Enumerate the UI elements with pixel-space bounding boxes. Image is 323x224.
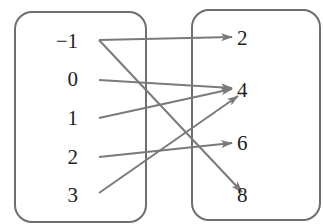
range-values: 2468 [237, 26, 248, 207]
domain-value: 3 [68, 183, 79, 207]
domain-value: 0 [68, 67, 79, 91]
arrow-icon [99, 37, 232, 40]
domain-box [15, 12, 146, 222]
arrow-icon [99, 143, 232, 157]
mapping-diagram: −10123 2468 [0, 0, 323, 224]
domain-values: −10123 [56, 29, 78, 207]
arrow-icon [99, 80, 232, 88]
mapping-diagram-canvas: −10123 2468 [0, 0, 323, 224]
range-value: 6 [237, 131, 248, 155]
domain-value: 1 [68, 106, 79, 130]
range-value: 8 [237, 183, 248, 207]
mapping-arrows [99, 37, 242, 193]
range-value: 2 [237, 26, 248, 50]
domain-value: 2 [68, 145, 79, 169]
domain-value: −1 [56, 29, 78, 53]
range-value: 4 [237, 78, 248, 102]
arrow-icon [99, 40, 242, 192]
